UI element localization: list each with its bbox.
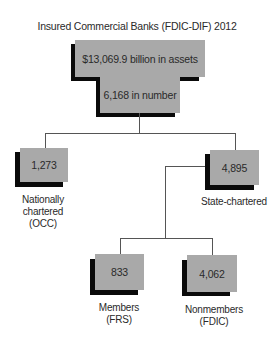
assets-box: $13,069.9 billion in assets xyxy=(75,40,205,77)
connector-state-left xyxy=(165,166,205,167)
connector-root-branch xyxy=(45,133,236,134)
connector-to-members xyxy=(120,238,121,254)
diagram-title: Insured Commercial Banks (FDIC-DIF) 2012 xyxy=(0,20,274,32)
state-label: State-chartered xyxy=(196,196,272,208)
national-box: 1,273 xyxy=(20,148,68,182)
connector-to-nonmembers xyxy=(212,238,213,255)
connector-state-trunk xyxy=(165,166,166,239)
connector-to-state xyxy=(235,133,236,150)
connector-root-trunk xyxy=(139,113,140,134)
nonmembers-label: Nonmembers (FDIC) xyxy=(176,304,252,328)
number-box: 6,168 in number xyxy=(100,77,180,113)
national-label: Nationally chartered (OCC) xyxy=(10,194,76,230)
connector-state-branch xyxy=(120,238,213,239)
nonmembers-box: 4,062 xyxy=(187,255,237,292)
members-box: 833 xyxy=(95,254,144,290)
connector-to-national xyxy=(45,133,46,148)
members-label: Members (FRS) xyxy=(84,302,154,326)
state-box: 4,895 xyxy=(210,150,259,185)
